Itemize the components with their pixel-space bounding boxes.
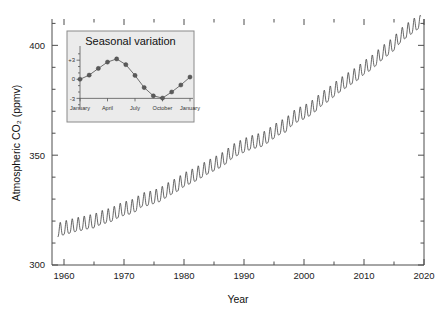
inset-month-labels: JanuaryAprilJulyOctoberJanuary [70, 105, 200, 111]
inset-data-point [124, 63, 128, 67]
x-tick-label: 1980 [173, 270, 194, 281]
x-tick-label: 1970 [113, 270, 134, 281]
co2-keeling-curve-figure: 300350400 1960197019801990200020102020 A… [0, 0, 448, 313]
y-tick-label: 400 [29, 40, 45, 51]
inset-data-point [115, 57, 119, 61]
inset-month-label: April [102, 105, 113, 111]
x-tick-label: 1990 [233, 270, 254, 281]
inset-data-point [78, 77, 82, 81]
x-tick-label: 1960 [53, 270, 74, 281]
inset-data-point [142, 85, 146, 89]
y-tick-label: 350 [29, 150, 45, 161]
inset-month-label: January [70, 105, 90, 111]
inset-month-label: July [130, 105, 140, 111]
inset-data-point [96, 66, 100, 70]
x-tick-label: 2000 [293, 270, 314, 281]
y-tick-label: 300 [29, 259, 45, 270]
y-axis-title: Atmospheric CO₂ (ppmv) [10, 85, 22, 202]
x-tick-label: 2020 [413, 270, 434, 281]
inset-data-point [133, 73, 137, 77]
chart-svg: 300350400 1960197019801990200020102020 A… [0, 0, 448, 313]
x-axis-title: Year [227, 293, 249, 305]
inset-data-point [87, 73, 91, 77]
inset-data-point [179, 83, 183, 87]
seasonal-variation-inset: Seasonal variation +30-3 JanuaryAprilJul… [67, 31, 200, 122]
inset-y-tick-label: -3 [70, 96, 76, 102]
inset-y-tick-label: +3 [68, 57, 76, 63]
inset-month-label: January [180, 105, 200, 111]
inset-data-point [151, 94, 155, 98]
inset-month-label: October [153, 105, 173, 111]
inset-data-point [105, 60, 109, 64]
inset-data-point [170, 90, 174, 94]
inset-title: Seasonal variation [85, 35, 176, 47]
inset-data-point [160, 96, 164, 100]
inset-data-point [188, 75, 192, 79]
x-tick-label: 2010 [353, 270, 374, 281]
